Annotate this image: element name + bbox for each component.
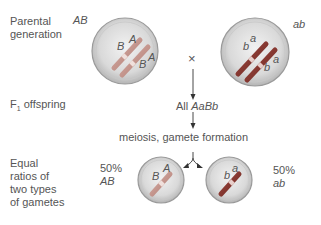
row-label-parental-line1: Parental xyxy=(10,15,62,28)
allele-label: a xyxy=(250,32,256,45)
allele-label: a xyxy=(273,53,279,66)
parent-right-genotype: ab xyxy=(293,18,305,31)
allele-label: A xyxy=(163,162,170,175)
offspring-prefix: All xyxy=(176,100,191,112)
parent-left-genotype: AB xyxy=(73,14,88,27)
offspring-label: All AaBb xyxy=(176,100,218,113)
row-label-gametes-line1: Equal xyxy=(10,157,64,170)
split-arrow-icon xyxy=(183,152,203,168)
row-label-parental-line2: generation xyxy=(10,28,62,41)
f1-rest: offspring xyxy=(21,98,66,110)
cross-symbol: × xyxy=(188,52,196,65)
gamete-left-genotype: AB xyxy=(100,175,115,188)
row-label-parental: Parental generation xyxy=(10,15,62,41)
allele-label: b xyxy=(264,61,270,74)
allele-label: b xyxy=(224,169,230,182)
allele-label: B xyxy=(152,170,159,183)
gamete-left-pct: 50% xyxy=(100,162,122,175)
gamete-cell-AB xyxy=(138,157,184,203)
process-label: meiosis, gamete formation xyxy=(119,131,248,144)
gamete-right-pct: 50% xyxy=(273,164,295,177)
allele-label: B xyxy=(139,58,146,71)
row-label-gametes: Equal ratios of two types of gametes xyxy=(10,157,64,209)
allele-label: b xyxy=(243,40,249,53)
gamete-right-genotype: ab xyxy=(273,177,285,190)
parent-cell-ab xyxy=(221,18,289,86)
allele-label: A xyxy=(129,33,136,46)
row-label-gametes-line3: two types xyxy=(10,183,64,196)
allele-label: B xyxy=(117,40,124,53)
row-label-gametes-line4: of gametes xyxy=(10,196,64,209)
arrow-down-icon xyxy=(191,69,196,100)
row-label-f1: F1 offspring xyxy=(10,98,66,115)
allele-label: A xyxy=(148,51,155,64)
offspring-genotype: AaBb xyxy=(191,100,218,112)
row-label-gametes-line2: ratios of xyxy=(10,170,64,183)
allele-label: a xyxy=(232,162,238,175)
f1-letter: F xyxy=(10,98,17,110)
arrow-down-icon xyxy=(191,112,196,129)
